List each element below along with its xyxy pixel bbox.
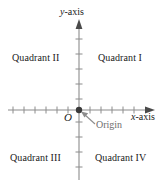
quadrant-1-label: Quadrant I [98, 52, 142, 63]
y-axis-arrowhead [76, 19, 83, 29]
y-axis-suffix: -axis [64, 6, 83, 17]
y-axis-label: y-axis [60, 6, 84, 17]
x-axis-label: x-axis [131, 111, 155, 122]
origin-dot [76, 107, 82, 113]
origin-letter-label: O [64, 111, 72, 123]
quadrant-4-label: Quadrant IV [95, 152, 146, 163]
coordinate-plane-figure: y-axis x-axis O Origin Quadrant II Quadr… [0, 0, 166, 184]
x-axis-suffix: -axis [135, 111, 154, 122]
origin-pointer-arrow [81, 112, 95, 125]
quadrant-2-label: Quadrant II [12, 52, 59, 63]
quadrant-3-label: Quadrant III [10, 152, 61, 163]
origin-annotation-label: Origin [96, 119, 122, 130]
